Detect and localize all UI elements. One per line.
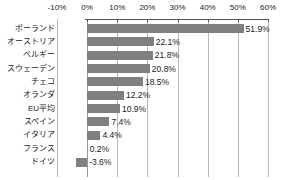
category-label: チェコ — [0, 77, 55, 87]
bar-value-label: 0.2% — [90, 145, 109, 154]
bar — [76, 158, 87, 167]
x-tickmark — [117, 19, 118, 22]
category-label: ポーランド — [0, 24, 55, 34]
bar — [87, 51, 153, 60]
bar — [87, 117, 109, 126]
bar-value-label: -3.6% — [89, 158, 111, 167]
bar-value-label: 12.2% — [126, 91, 150, 100]
gridline — [57, 19, 58, 177]
plot-area: 51.9%22.1%21.8%20.8%18.5%12.2%10.9%7.4%4… — [57, 19, 268, 177]
category-label: オランダ — [0, 90, 55, 100]
bar — [87, 64, 150, 73]
gridline — [268, 19, 269, 177]
x-tickmark — [87, 19, 88, 22]
x-tickmark — [238, 19, 239, 22]
x-tickmark — [208, 19, 209, 22]
x-axis-line — [85, 19, 268, 20]
bar — [87, 77, 143, 86]
bar-value-label: 7.4% — [111, 118, 130, 127]
category-label: オーストリア — [0, 37, 55, 47]
bar — [87, 37, 154, 46]
gridline — [238, 19, 239, 177]
bar-chart: -10%0%10%20%30%40%50%60% ポーランドオーストリアベルギー… — [0, 0, 282, 180]
bar — [87, 24, 243, 33]
category-label: イタリア — [0, 130, 55, 140]
bar — [87, 131, 100, 140]
bar-value-label: 4.4% — [102, 131, 121, 140]
gridline — [208, 19, 209, 177]
bar-value-label: 22.1% — [156, 38, 180, 47]
bar-value-label: 51.9% — [246, 25, 270, 34]
x-tick-label: -10% — [48, 3, 67, 13]
x-tick-label: 30% — [170, 3, 186, 13]
category-label: フランス — [0, 144, 55, 154]
x-tick-label: 20% — [139, 3, 155, 13]
x-tick-label: 40% — [200, 3, 216, 13]
x-tick-label: 50% — [230, 3, 246, 13]
x-tickmark — [147, 19, 148, 22]
x-tick-label: 60% — [260, 3, 276, 13]
x-tick-label: 0% — [81, 3, 93, 13]
category-label: スペイン — [0, 117, 55, 127]
x-tick-label: 10% — [109, 3, 125, 13]
category-axis-labels: ポーランドオーストリアベルギースウェーデンチェコオランダEU平均スペインイタリア… — [0, 19, 55, 177]
category-label: EU平均 — [0, 104, 55, 114]
bar — [87, 91, 124, 100]
category-label: スウェーデン — [0, 64, 55, 74]
x-tickmark — [178, 19, 179, 22]
bar — [87, 104, 120, 113]
category-label: ベルギー — [0, 50, 55, 60]
category-label: ドイツ — [0, 157, 55, 167]
bar-value-label: 10.9% — [122, 105, 146, 114]
bar-value-label: 20.8% — [152, 65, 176, 74]
bar-value-label: 18.5% — [145, 78, 169, 87]
bar-value-label: 21.8% — [155, 51, 179, 60]
x-tickmark — [268, 19, 269, 22]
